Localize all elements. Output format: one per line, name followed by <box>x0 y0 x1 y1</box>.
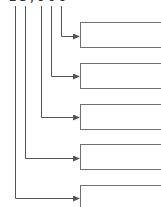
child-box-4 <box>80 144 161 170</box>
connector-branch-1 <box>62 6 80 37</box>
child-box-1 <box>80 22 161 48</box>
connector-branch-3 <box>42 6 80 118</box>
connector-branch-2 <box>52 6 80 77</box>
child-box-2 <box>80 63 161 89</box>
child-box-3 <box>80 104 161 130</box>
connector-branch-4 <box>26 6 80 159</box>
child-box-5 <box>80 185 161 207</box>
